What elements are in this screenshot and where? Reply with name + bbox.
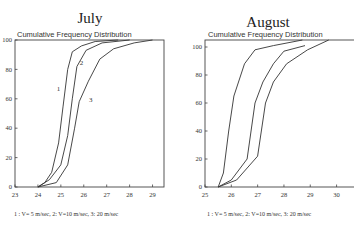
x-tick-label: 24 <box>35 191 42 198</box>
august-legend: 1 : V= 5 m/sec, 2: V=10 m/sec, 3: 20 m/s… <box>207 211 312 217</box>
x-tick-label: 26 <box>81 191 88 198</box>
x-tick-label: 28 <box>126 191 133 198</box>
august-chart-subtitle: Cumulative Frequency Distribution <box>208 30 323 39</box>
august-plot-frame <box>205 40 354 187</box>
curve-series-1 <box>38 40 118 187</box>
x-tick-label: 30 <box>333 191 340 198</box>
y-tick-label: 60 <box>196 99 203 106</box>
curve-series-3 <box>38 40 153 187</box>
curve-label: 2 <box>80 59 84 67</box>
july-x-axis: 23242526272829 <box>12 185 156 199</box>
x-tick-label: 27 <box>103 191 110 198</box>
x-tick-label: 25 <box>58 191 65 198</box>
y-tick-label: 60 <box>6 95 13 102</box>
x-tick-label: 28 <box>281 191 288 198</box>
august-x-axis: 252627282930 <box>202 185 340 199</box>
curve-series-3 <box>218 40 329 187</box>
y-tick-label: 100 <box>192 43 202 50</box>
y-tick-label: 100 <box>2 36 12 43</box>
x-tick-label: 23 <box>12 191 19 198</box>
july-plot-frame <box>15 40 164 187</box>
curve-label: 3 <box>89 96 93 104</box>
july-curves <box>38 40 153 187</box>
y-tick-label: 40 <box>6 124 13 131</box>
july-legend: 1 : V= 5 m/sec, 2: V=10 m/sec, 3: 20 m/s… <box>14 211 119 217</box>
curve-series-2 <box>38 40 130 187</box>
curve-label: 1 <box>57 85 61 93</box>
august-chart-panel: August Cumulative Frequency Distribution… <box>192 14 354 217</box>
y-tick-label: 80 <box>6 66 13 73</box>
august-curves <box>218 40 329 187</box>
x-tick-label: 29 <box>307 191 314 198</box>
y-tick-label: 0 <box>9 183 12 190</box>
y-tick-label: 20 <box>6 154 13 161</box>
x-tick-label: 29 <box>149 191 156 198</box>
x-tick-label: 25 <box>202 191 209 198</box>
july-chart-title: July <box>77 10 103 26</box>
july-chart-panel: July Cumulative Frequency Distribution 0… <box>2 10 164 217</box>
x-tick-label: 27 <box>254 191 261 198</box>
y-tick-label: 20 <box>196 155 203 162</box>
x-tick-label: 26 <box>228 191 235 198</box>
july-chart-subtitle: Cumulative Frequency Distribution <box>17 30 132 39</box>
y-tick-label: 0 <box>199 183 202 190</box>
y-tick-label: 80 <box>196 71 203 78</box>
cumulative-frequency-figure: July Cumulative Frequency Distribution 0… <box>0 0 354 225</box>
august-chart-title: August <box>246 14 290 30</box>
y-tick-label: 40 <box>196 127 203 134</box>
